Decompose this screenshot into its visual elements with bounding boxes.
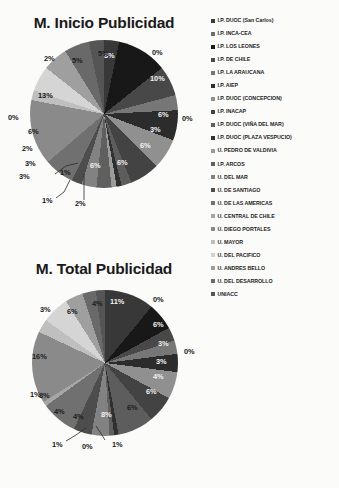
legend-item-label: I.P. AIEP xyxy=(218,82,238,88)
legend-item-label: U. DE SANTIAGO xyxy=(218,187,261,193)
legend-item-label: U. DEL MAR xyxy=(218,174,248,180)
legend-item-label: I.P. INCA-CEA xyxy=(218,30,252,36)
pie-slice-percent-label: 6% xyxy=(153,321,164,328)
chart-total-publicidad: M. Total Publicidad 11%0%6%3%0%3%4%6%6%8… xyxy=(0,252,208,488)
legend-item[interactable]: I.P. LOS LEONES xyxy=(211,43,339,51)
legend-item[interactable]: U. PEDRO DE VALDIVIA xyxy=(211,147,339,155)
chart1-title: M. Inicio Publicidad xyxy=(0,2,208,32)
pie-slice-percent-label: 3% xyxy=(40,306,51,313)
pie-slice-percent-label: 0% xyxy=(182,115,193,122)
legend-swatch-icon xyxy=(211,136,215,140)
legend-item[interactable]: U. ANDRES BELLO xyxy=(211,265,339,273)
pie-slice-percent-label: 6% xyxy=(127,404,138,411)
legend-swatch-icon xyxy=(211,84,215,88)
legend-item-label: I.P. LOS LEONES xyxy=(218,43,260,49)
legend-item[interactable]: I.P. INCA-CEA xyxy=(211,30,339,38)
chart2-title: M. Total Publicidad xyxy=(0,252,208,278)
pie-slice-percent-label: 0% xyxy=(152,49,163,56)
legend-swatch-icon xyxy=(211,292,215,296)
pie-slice-percent-label: 0% xyxy=(82,443,93,450)
legend-item[interactable]: I.P. DE CHILE xyxy=(211,56,339,64)
pie-slice-percent-label: 3% xyxy=(25,160,36,167)
pie-slice-percent-label: 0% xyxy=(153,296,164,303)
pie-slice-percent-label: 1% xyxy=(112,441,123,448)
chart2-plot-area: 11%0%6%3%0%3%4%6%6%8%1%0%1%4%4%1%8%16%3%… xyxy=(0,278,208,478)
legend-item[interactable]: I.P. ARCOS xyxy=(211,161,339,169)
legend-item[interactable]: I.P. DUOC (CONCEPCION) xyxy=(211,95,339,103)
legend-item-label: UNIACC xyxy=(218,291,238,297)
legend-item-label: U. PEDRO DE VALDIVIA xyxy=(218,147,277,153)
pie-slice-percent-label: 6% xyxy=(158,111,169,118)
pie-slice-percent-label: 3% xyxy=(150,126,161,133)
pie-slice-percent-label: 6% xyxy=(90,162,101,169)
legend-item[interactable]: U. DEL MAR xyxy=(211,174,339,182)
chart-inicio-publicidad: M. Inicio Publicidad 3%0%10%6%3%6%6%6%0%… xyxy=(0,2,208,252)
pie-slice-percent-label: 4% xyxy=(92,300,103,307)
pie-slice-percent-label: 0% xyxy=(8,114,19,121)
legend-item[interactable]: I.P. DUOC (San Carlos) xyxy=(211,17,339,25)
legend-swatch-icon xyxy=(211,110,215,114)
legend-swatch-icon xyxy=(211,97,215,101)
legend-item[interactable]: U. DE LAS AMERICAS xyxy=(211,200,339,208)
legend-swatch-icon xyxy=(211,175,215,179)
legend-swatch-icon xyxy=(211,149,215,153)
pie-slice-percent-label: 6% xyxy=(117,159,128,166)
pie-slice-percent-label: 5% xyxy=(72,57,83,64)
legend-item[interactable]: I.P. DUOC (PLAZA VESPUCIO) xyxy=(211,134,339,142)
legend-swatch-icon xyxy=(211,123,215,127)
legend-item-label: I.P. DUOC (PLAZA VESPUCIO) xyxy=(218,134,292,140)
pie-slice-percent-label: 4% xyxy=(153,373,164,380)
legend-item[interactable]: I.P. INACAP xyxy=(211,108,339,116)
legend-item[interactable]: U. CENTRAL DE CHILE xyxy=(211,213,339,221)
pie-slice-percent-label: 10% xyxy=(150,75,165,82)
pie-slice-percent-label: 5% xyxy=(98,50,109,57)
legend-item[interactable]: U. DIEGO PORTALES xyxy=(211,226,339,234)
chart1-plot-area: 3%0%10%6%3%6%6%6%0%1%1%2%3%3%2%6%0%13%2%… xyxy=(0,32,208,232)
pie-slice-percent-label: 1% xyxy=(42,197,53,204)
legend-item-label: I.P. INACAP xyxy=(218,108,247,114)
legend-item[interactable]: U. DE SANTIAGO xyxy=(211,187,339,195)
legend-item[interactable]: UNIACC xyxy=(211,291,339,299)
legend-item[interactable]: U. MAYOR xyxy=(211,239,339,247)
pie-slice-percent-label: 13% xyxy=(38,92,53,99)
legend-swatch-icon xyxy=(211,162,215,166)
legend-item-label: I.P. ARCOS xyxy=(218,161,245,167)
pie-slice-percent-label: 6% xyxy=(28,128,39,135)
legend-item-label: U. DE LAS AMERICAS xyxy=(218,200,273,206)
legend-item[interactable]: I.P. LA ARAUCANA xyxy=(211,69,339,77)
legend-swatch-icon xyxy=(211,71,215,75)
legend-item-label: U. DIEGO PORTALES xyxy=(218,226,271,232)
pie-slice-percent-label: 6% xyxy=(146,388,157,395)
legend-item-label: I.P. DE CHILE xyxy=(218,56,251,62)
pie-slice-percent-label: 3% xyxy=(158,340,169,347)
legend-item-label: U. DEL PACIFICO xyxy=(218,252,261,258)
legend-item-label: U. DEL DESARROLLO xyxy=(218,278,273,284)
legend: I.P. DUOC (San Carlos)I.P. INCA-CEAI.P. … xyxy=(211,17,339,304)
document-page: M. Inicio Publicidad 3%0%10%6%3%6%6%6%0%… xyxy=(0,0,339,488)
pie-slice-percent-label: 8% xyxy=(39,392,50,399)
pie-slice-percent-label: 1% xyxy=(52,441,63,448)
pie-slice-percent-label: 2% xyxy=(44,55,55,62)
legend-item-label: U. ANDRES BELLO xyxy=(218,265,266,271)
legend-item[interactable]: U. DEL PACIFICO xyxy=(211,252,339,260)
legend-swatch-icon xyxy=(211,253,215,257)
pie-slice-percent-label: 0% xyxy=(184,348,195,355)
legend-swatch-icon xyxy=(211,214,215,218)
pie-slice-percent-label: 16% xyxy=(32,353,47,360)
legend-item-label: U. MAYOR xyxy=(218,239,244,245)
pie-slice-percent-label: 2% xyxy=(75,200,86,207)
pie-slice-percent-label: 1% xyxy=(60,169,71,176)
pie-slice-percent-label: 6% xyxy=(140,142,151,149)
legend-swatch-icon xyxy=(211,32,215,36)
legend-item-label: U. CENTRAL DE CHILE xyxy=(218,213,275,219)
legend-item[interactable]: I.P. DUOC (VIÑA DEL MAR) xyxy=(211,121,339,129)
pie-slice-percent-label: 8% xyxy=(101,411,112,418)
pie-slice-percent-label: 2% xyxy=(22,145,33,152)
legend-swatch-icon xyxy=(211,240,215,244)
legend-item[interactable]: I.P. AIEP xyxy=(211,82,339,90)
legend-item-label: I.P. LA ARAUCANA xyxy=(218,69,265,75)
legend-item[interactable]: U. DEL DESARROLLO xyxy=(211,278,339,286)
legend-swatch-icon xyxy=(211,19,215,23)
legend-swatch-icon xyxy=(211,201,215,205)
legend-swatch-icon xyxy=(211,279,215,283)
